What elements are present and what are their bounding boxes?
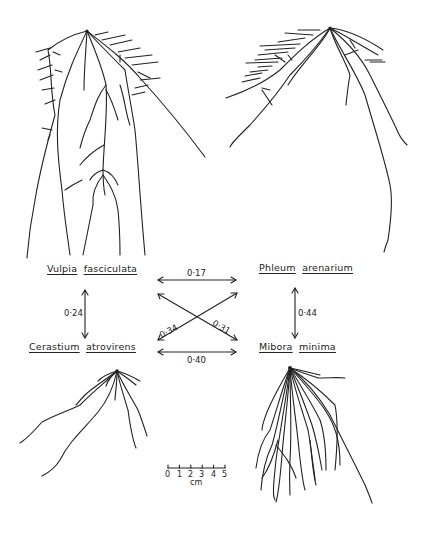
genus-name: Vulpia [47, 263, 77, 274]
scale-unit: cm [190, 478, 202, 487]
mibora-root-system [256, 368, 372, 503]
value-vulpia-phleum: 0·17 [187, 268, 206, 278]
vulpia-root-base [85, 29, 88, 32]
cerastium-root-system [20, 371, 147, 476]
value-phleum-mibora: 0·44 [298, 308, 317, 318]
genus-name: Mibora [259, 341, 293, 352]
epithet-name: minima [299, 341, 336, 352]
species-label-cerastium: Cerastium atrovirens [29, 341, 136, 352]
scale-tick-5: 5 [222, 470, 227, 479]
scale-tick-4: 4 [211, 470, 216, 479]
value-cerastium-mibora: 0·40 [187, 355, 206, 365]
phleum-root-system [226, 28, 407, 252]
species-label-phleum: Phleum arenarium [259, 262, 353, 273]
epithet-name: arenarium [302, 262, 353, 273]
species-label-mibora: Mibora minima [259, 341, 336, 352]
genus-name: Cerastium [29, 341, 80, 352]
genus-name: Phleum [259, 262, 296, 273]
value-vulpia-cerastium: 0·24 [64, 308, 83, 318]
phleum-root-base [328, 26, 331, 29]
epithet-name: atrovirens [86, 341, 136, 352]
epithet-name: fasciculata [84, 263, 137, 274]
cerastium-root-base [115, 369, 119, 373]
vulpia-root-system [27, 31, 205, 258]
scale-tick-1: 1 [177, 470, 182, 479]
species-label-vulpia: Vulpia fasciculata [47, 263, 137, 274]
scale-tick-0: 0 [165, 470, 170, 479]
scale-bar [168, 465, 225, 468]
mibora-root-base [288, 366, 292, 370]
